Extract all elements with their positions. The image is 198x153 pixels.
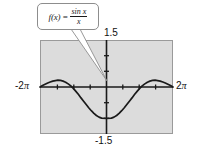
x-max-label: 2π [176, 80, 187, 91]
formula-numerator: sin x [70, 8, 87, 17]
x-min-value: -2 [15, 80, 24, 91]
formula-fraction: sin x x [70, 8, 87, 26]
formula-denominator: x [76, 17, 82, 26]
formula-function-name: f(x) [49, 12, 61, 22]
formula-callout: f(x) = sin x x [37, 3, 99, 30]
x-min-label: -2π [15, 80, 29, 91]
figure-sinx-over-x: f(x) = sin x x 1.5 -1.5 -2π 2π [0, 0, 198, 153]
x-max-pi-symbol: π [182, 80, 187, 91]
y-min-label: -1.5 [95, 135, 112, 146]
formula-expression: f(x) = sin x x [49, 8, 88, 26]
formula-callout-inner: f(x) = sin x x [38, 4, 98, 29]
y-max-label: 1.5 [104, 27, 118, 38]
callout-tail-shape [71, 29, 107, 81]
x-min-pi-symbol: π [24, 80, 29, 91]
callout-pointer [0, 0, 198, 153]
formula-equals-sign: = [63, 12, 68, 22]
